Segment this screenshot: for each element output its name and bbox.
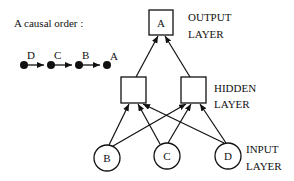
causal-label-a: A [110, 50, 118, 62]
causal-dot-c [47, 61, 55, 69]
causal-dot-a [103, 61, 111, 69]
hidden-node-1 [121, 77, 146, 103]
causal-label-d: D [27, 49, 35, 61]
causal-order-title: A causal order : [14, 17, 83, 29]
input-layer-label-2: LAYER [246, 160, 282, 172]
causal-label-b: B [82, 49, 89, 61]
input-node-c-label: C [163, 150, 170, 162]
hidden-layer-label-1: HIDDEN [214, 82, 256, 94]
causal-order-chain: D C B A [20, 49, 118, 69]
input-node-b-label: B [103, 152, 110, 164]
input-node-b: B [94, 145, 120, 171]
output-layer-label-1: OUTPUT [188, 11, 232, 23]
output-layer-label-2: LAYER [188, 28, 224, 40]
hidden-to-output-edges [136, 36, 190, 77]
causal-label-c: C [54, 49, 61, 61]
input-layer-label-1: INPUT [246, 143, 279, 155]
causal-network-diagram: A causal order : D C B A A OUTPUT LAYER [0, 0, 294, 181]
input-node-d-label: D [224, 150, 232, 162]
hidden-layer-label-2: LAYER [214, 98, 250, 110]
causal-dot-d [20, 61, 28, 69]
hidden-node-2 [181, 77, 206, 103]
input-node-c: C [154, 143, 180, 169]
input-node-d: D [215, 143, 241, 169]
input-to-hidden-edges [109, 104, 226, 146]
causal-dot-b [75, 61, 83, 69]
output-node-a: A [149, 10, 173, 35]
output-node-label: A [157, 17, 165, 29]
